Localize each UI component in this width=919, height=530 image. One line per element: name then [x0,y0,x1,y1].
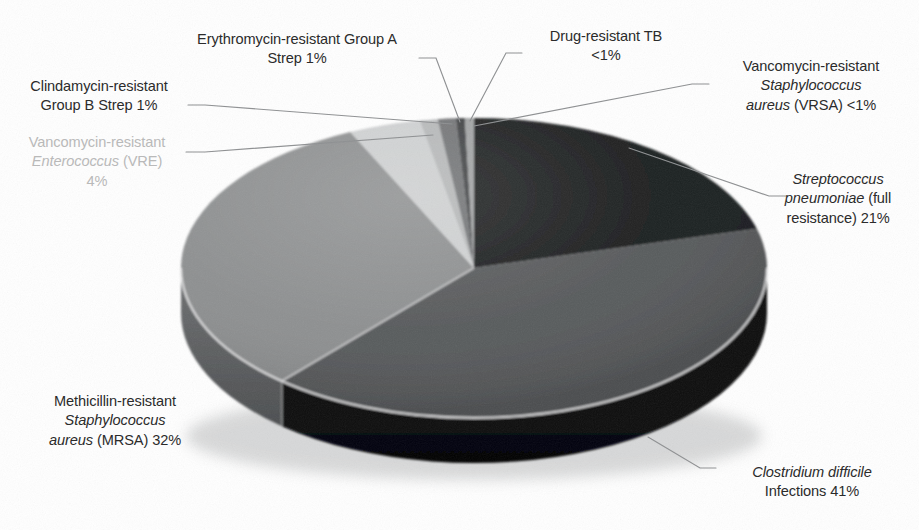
label-clindamycin-line2: Group B Strep 1% [10,96,188,115]
label-vrsa-species: aureus [746,97,790,113]
label-tb-line2: <1% [522,46,690,65]
pie-body [181,118,767,463]
label-mrsa: Methicillin-resistant Staphylococcus aur… [20,392,210,450]
label-pneumo-genus: Streptococcus [792,171,883,187]
label-erythromycin-line2: Strep 1% [174,49,420,68]
label-mrsa-line1: Methicillin-resistant [20,392,210,411]
label-vre-genus: Enterococcus [32,153,119,169]
label-pneumo-line2: pneumoniae (full [762,189,914,208]
label-erythromycin-line1: Erythromycin-resistant Group A [174,30,420,49]
label-vrsa-abbrev: (VRSA) <1% [790,97,876,113]
label-vrsa-line2: Staphylococcus [709,76,913,95]
label-streptococcus-pneumoniae: Streptococcus pneumoniae (full resistanc… [762,170,914,228]
label-vre-line3: 4% [8,172,186,191]
label-clindamycin-line1: Clindamycin-resistant [10,77,188,96]
label-vre-line1: Vancomycin-resistant [8,133,186,152]
label-clindamycin-group-b-strep: Clindamycin-resistant Group B Strep 1% [10,77,188,116]
leader-vrsa [474,84,709,126]
label-vre-abbrev: (VRE) [119,153,162,169]
label-vrsa-genus: Staphylococcus [761,77,862,93]
label-mrsa-line3: aureus (MRSA) 32% [20,431,210,450]
label-mrsa-line2: Staphylococcus [20,411,210,430]
label-pneumo-line3: resistance) 21% [762,209,914,228]
label-cdiff-species: Clostridium difficile [752,464,872,480]
label-mrsa-species: aureus [49,432,93,448]
label-tb-line1: Drug-resistant TB [522,27,690,46]
label-clostridium-difficile: Clostridium difficile Infections 41% [712,463,912,502]
label-vre: Vancomycin-resistant Enterococcus (VRE) … [8,133,186,191]
label-erythromycin-group-a-strep: Erythromycin-resistant Group A Strep 1% [174,30,420,69]
leader-erythromycin [419,58,460,122]
label-mrsa-abbrev: (MRSA) 32% [93,432,181,448]
leader-clindamycin [188,105,452,124]
label-cdiff-line2: Infections 41% [712,482,912,501]
label-pneumo-qualifier: (full [864,190,891,206]
label-vre-line2: Enterococcus (VRE) [8,152,186,171]
label-mrsa-genus: Staphylococcus [65,412,166,428]
label-pneumo-line1: Streptococcus [762,170,914,189]
label-vrsa-line3: aureus (VRSA) <1% [709,96,913,115]
label-cdiff-line1: Clostridium difficile [712,463,912,482]
leader-tb [470,53,522,121]
label-vrsa-line1: Vancomycin-resistant [709,57,913,76]
label-drug-resistant-tb: Drug-resistant TB <1% [522,27,690,66]
label-pneumo-species: pneumoniae [785,190,864,206]
label-vrsa: Vancomycin-resistant Staphylococcus aure… [709,57,913,115]
chart-canvas: Erythromycin-resistant Group A Strep 1% … [0,0,919,530]
